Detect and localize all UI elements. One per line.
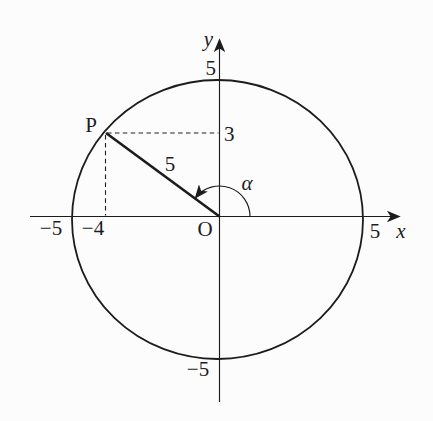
x-axis-left-tick-label: −5: [40, 216, 62, 240]
y-axis-label: y: [202, 27, 214, 51]
radius-op-segment: [106, 133, 220, 217]
y-axis-top-tick-label: 5: [206, 56, 217, 80]
circle-radius-5: [72, 80, 363, 359]
y-axis-bottom-tick-label: −5: [187, 357, 209, 381]
point-p-label: P: [85, 113, 97, 137]
p-x-projection-tick-label: −4: [82, 216, 105, 240]
figure-canvas: y 5 P 3 5 α O −5 −4 5 x −5: [0, 0, 433, 421]
x-axis-label: x: [395, 219, 406, 243]
origin-label: O: [197, 217, 212, 241]
radius-length-label: 5: [165, 152, 176, 176]
angle-alpha-label: α: [241, 171, 253, 195]
circle-diagram-svg: y 5 P 3 5 α O −5 −4 5 x −5: [0, 0, 433, 421]
p-y-projection-tick-label: 3: [224, 122, 235, 146]
x-axis-right-tick-label: 5: [370, 219, 381, 243]
